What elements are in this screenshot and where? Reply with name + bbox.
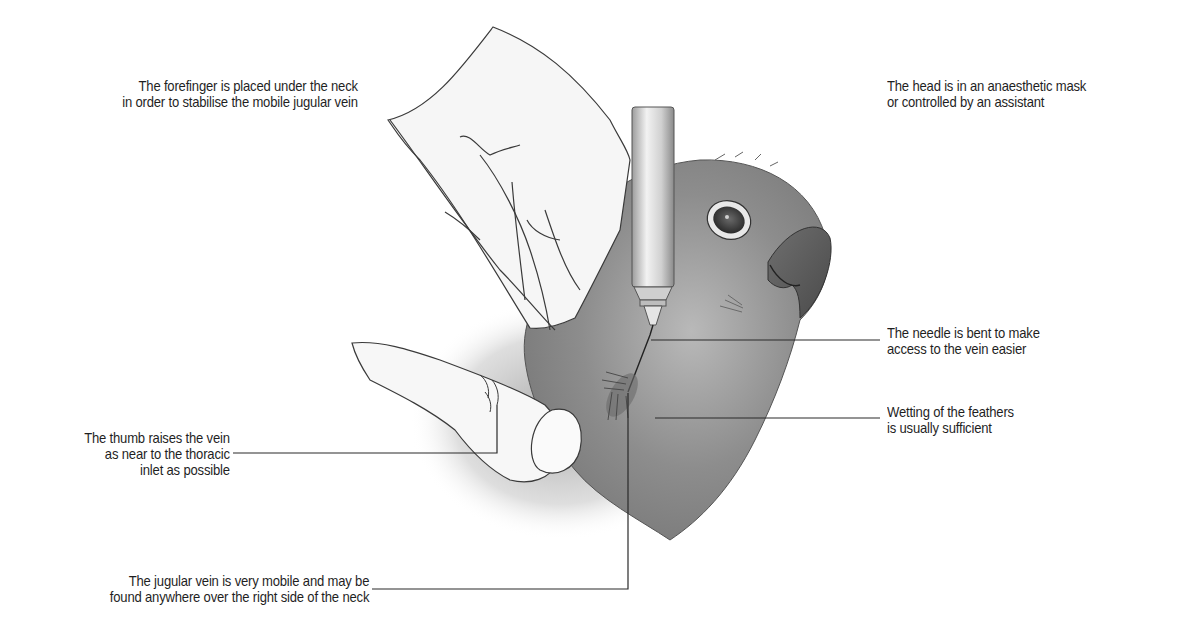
label-jugular: The jugular vein is very mobile and may … <box>110 573 369 605</box>
label-thumb: The thumb raises the vein as near to the… <box>84 430 230 478</box>
illustration: The forefinger is placed under the neck … <box>0 0 1181 624</box>
label-forefinger: The forefinger is placed under the neck … <box>122 78 358 110</box>
label-head: The head is in an anaesthetic mask or co… <box>887 78 1086 110</box>
label-feathers: Wetting of the feathers is usually suffi… <box>887 404 1014 436</box>
label-needle: The needle is bent to make access to the… <box>887 325 1040 357</box>
